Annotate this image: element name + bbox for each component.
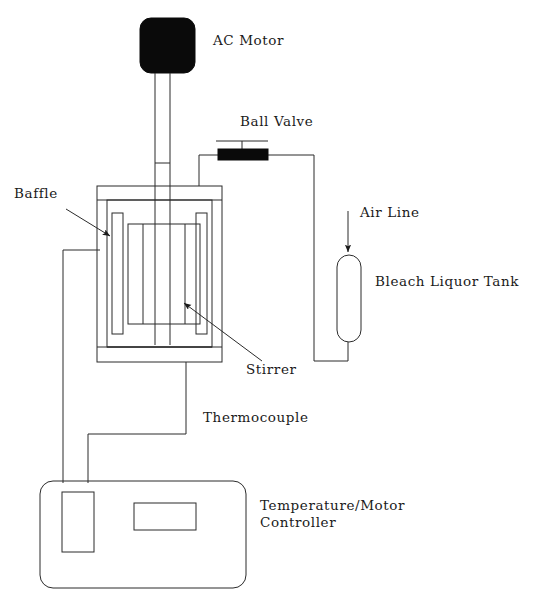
- label-controller-line1: Temperature/Motor: [260, 497, 405, 514]
- label-ac-motor: AC Motor: [213, 33, 284, 49]
- apparatus-diagram: AC Motor Ball Valve Baffle Air Line Blea…: [0, 0, 533, 615]
- ac-motor-body: [140, 18, 195, 73]
- ball-valve-body: [216, 141, 268, 160]
- label-ball-valve: Ball Valve: [240, 114, 313, 130]
- baffle-plates: [112, 213, 207, 334]
- controller-body: [40, 481, 246, 588]
- thermocouple-wire: [88, 362, 186, 483]
- label-controller-line2: Controller: [260, 514, 336, 531]
- label-baffle: Baffle: [14, 186, 58, 202]
- baffle-pointer-arrow: [66, 209, 110, 236]
- label-air-line: Air Line: [360, 205, 420, 221]
- label-bleach-liquor-tank: Bleach Liquor Tank: [375, 274, 519, 290]
- stirrer-blades: [128, 224, 200, 324]
- stirrer-shaft: [155, 73, 170, 345]
- reactor-vessel: [97, 186, 222, 362]
- motor-power-wire: [63, 250, 100, 483]
- bleach-liquor-tank-body: [337, 255, 361, 342]
- label-thermocouple: Thermocouple: [203, 410, 309, 426]
- label-stirrer: Stirrer: [246, 362, 297, 378]
